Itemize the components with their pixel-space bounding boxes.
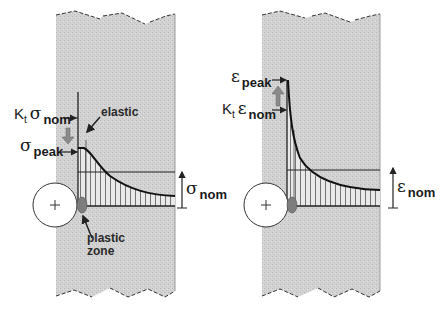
- kt-eps-nom-label: Ktεnom: [222, 100, 276, 117]
- sigma-symbol: σ: [30, 103, 42, 123]
- eps-peak-label: εpeak: [231, 68, 271, 85]
- nom-sub: nom: [43, 112, 70, 127]
- nom-sub: nom: [200, 187, 227, 202]
- epsilon-symbol: ε: [397, 176, 406, 196]
- kt-sub: t: [232, 109, 235, 120]
- sigma-symbol: σ: [186, 178, 198, 198]
- sigma-peak-label: σpeak: [20, 137, 63, 154]
- kt-text: K: [222, 100, 232, 117]
- epsilon-symbol: ε: [238, 98, 247, 118]
- eps-nom-indicator-label: εnom: [397, 178, 435, 195]
- epsilon-symbol: ε: [231, 66, 240, 86]
- nom-sub: nom: [249, 107, 276, 122]
- plastic-zone-right: [287, 197, 297, 213]
- kt-sub: t: [24, 114, 27, 125]
- right-plate: [262, 11, 380, 297]
- peak-sub: peak: [34, 144, 64, 159]
- plastic-zone-label-line2: zone: [87, 245, 114, 257]
- elastic-label: elastic: [101, 106, 138, 118]
- kt-text: K: [14, 105, 24, 122]
- plastic-zone-label-line1: plastic: [87, 232, 125, 244]
- kt-sigma-nom-label: Ktσnom: [14, 105, 71, 122]
- nom-sub: nom: [408, 185, 435, 200]
- sigma-symbol: σ: [20, 135, 32, 155]
- plastic-zone: [77, 197, 87, 213]
- sigma-nom-indicator-label: σnom: [186, 180, 227, 197]
- left-plate: [56, 11, 175, 297]
- notch-diagram: [0, 0, 440, 319]
- peak-sub: peak: [242, 75, 272, 90]
